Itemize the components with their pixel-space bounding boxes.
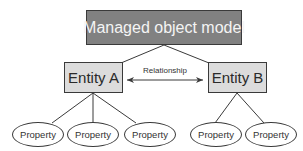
entity-b-property-2: Property [245,122,297,147]
edge-entity-a-to-property-3 [93,93,136,123]
edge-entity-b-to-property-1 [215,93,237,123]
edge-root-to-entity-a [121,45,164,63]
managed-object-model-node: Managed object model [86,10,242,45]
edge-entity-b-to-property-2 [237,93,264,123]
edge-root-to-entity-b [164,45,209,63]
edge-entity-a-to-property-1 [52,93,93,123]
entity-b-property-1: Property [190,122,242,147]
relationship-label: Relationship [140,66,190,75]
entity-a-property-3: Property [124,122,176,147]
entity-b-node: Entity B [208,62,267,93]
entity-a-property-2: Property [67,122,119,147]
entity-a-property-1: Property [12,122,64,147]
entity-a-node: Entity A [64,62,123,93]
